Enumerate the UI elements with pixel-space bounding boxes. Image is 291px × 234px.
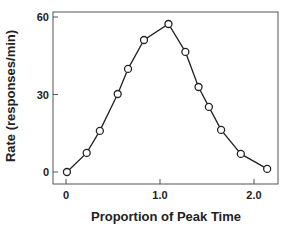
data-point-marker [83,149,90,156]
line-chart: 03060 01.02.0 Proportion of Peak Time Ra… [0,0,291,234]
data-point-marker [264,165,271,172]
y-tick-label: 60 [37,11,49,23]
data-point-marker [182,48,189,55]
data-point-marker [141,37,148,44]
y-axis-label: Rate (responses/min) [3,30,18,162]
data-point-marker [114,90,121,97]
x-axis-ticks: 01.02.0 [63,179,262,201]
x-tick-label: 1.0 [152,189,167,201]
data-point-marker [195,84,202,91]
data-point-marker [218,126,225,133]
y-tick-label: 30 [37,89,49,101]
x-axis-label: Proportion of Peak Time [91,209,241,224]
x-tick-label: 0 [63,189,69,201]
data-point-marker [125,65,132,72]
x-tick-label: 2.0 [246,189,261,201]
data-point-marker [165,20,172,27]
plot-frame [53,12,278,184]
data-line [67,24,267,172]
data-point-marker [96,127,103,134]
data-point-marker [237,150,244,157]
data-point-marker [63,169,70,176]
data-point-marker [205,103,212,110]
y-tick-label: 0 [43,166,49,178]
data-points [63,20,270,175]
y-axis-ticks: 03060 [37,11,58,178]
